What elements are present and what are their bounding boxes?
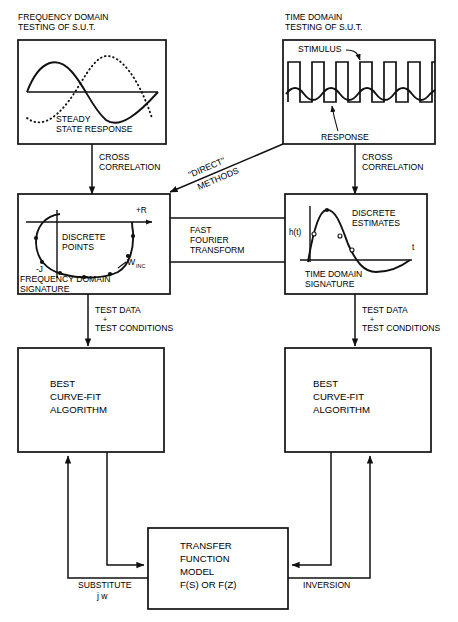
curvefit-right-line1: BEST — [313, 378, 338, 389]
time-signature-caption-line1: TIME DOMAIN — [305, 269, 362, 279]
impulse-estimate-point — [338, 234, 342, 238]
nyquist-point — [40, 260, 44, 264]
freq-test-heading-line2: TESTING OF S.U.T. — [18, 22, 95, 32]
impulse-estimate-point — [350, 248, 354, 252]
curvefit-left-line1: BEST — [50, 378, 75, 389]
curvefit-left-line2: CURVE-FIT — [50, 391, 101, 402]
impulse-estimate-point — [325, 208, 329, 212]
time-test-heading-line2: TESTING OF S.U.T. — [285, 22, 362, 32]
cross-correlation-right-line2: CORRELATION — [362, 162, 423, 172]
substitute-label-line2: j w — [96, 591, 108, 601]
fft-label-line2: FOURIER — [190, 235, 229, 245]
freq-test-inner-label-line2: STATE RESPONSE — [56, 124, 133, 134]
freq-signature-inner-label-line1: DISCRETE — [62, 232, 106, 242]
system-identification-flow-diagram: FREQUENCY DOMAIN TESTING OF S.U.T. STEAD… — [0, 0, 458, 622]
time-signature-inner-label-line1: DISCRETE — [352, 208, 396, 218]
time-signature-caption-line2: SIGNATURE — [305, 279, 355, 289]
diagram-canvas: FREQUENCY DOMAIN TESTING OF S.U.T. STEAD… — [0, 0, 458, 622]
test-data-left-plus: + — [103, 316, 107, 323]
curvefit-right-line3: ALGORITHM — [313, 404, 370, 415]
test-data-right-plus: + — [370, 316, 374, 323]
nyquist-point — [131, 234, 135, 238]
cross-correlation-left-line2: CORRELATION — [99, 162, 160, 172]
cross-correlation-left-line1: CROSS — [99, 152, 130, 162]
freq-test-inner-label-line1: STEADY — [56, 114, 91, 124]
substitute-label-line1: SUBSTITUTE — [78, 580, 132, 590]
nyquist-real-axis-label: +R — [136, 206, 147, 215]
time-signature-inner-label-line2: ESTIMATES — [352, 218, 400, 228]
test-data-left-line1: TEST DATA — [95, 305, 141, 315]
transfer-line1: TRANSFER — [180, 540, 232, 551]
response-label: RESPONSE — [321, 132, 369, 142]
fft-label-line3: TRANSFORM — [190, 245, 244, 255]
omega-increasing-label: W — [127, 257, 136, 267]
transfer-line2: FUNCTION — [180, 553, 230, 564]
test-data-right-line2: TEST CONDITIONS — [362, 323, 440, 333]
freq-signature-caption-line2: SIGNATURE — [20, 284, 70, 294]
time-test-heading-line1: TIME DOMAIN — [285, 12, 342, 22]
inversion-label: INVERSION — [303, 580, 350, 590]
curvefit-left-line3: ALGORITHM — [50, 404, 107, 415]
impulse-y-axis-label: h(t) — [289, 228, 302, 237]
curvefit-right-line2: CURVE-FIT — [313, 391, 364, 402]
transfer-line4: F(S) OR F(Z) — [180, 579, 236, 590]
nyquist-imag-axis-label: -J — [36, 265, 43, 274]
fft-label-line1: FAST — [190, 225, 212, 235]
test-data-left-line2: TEST CONDITIONS — [95, 323, 173, 333]
freq-test-heading-line1: FREQUENCY DOMAIN — [18, 12, 109, 22]
transfer-line3: MODEL — [180, 566, 215, 577]
freq-signature-inner-label-line2: POINTS — [62, 242, 94, 252]
omega-increasing-subscript: INC — [136, 263, 145, 269]
impulse-estimate-point — [312, 232, 316, 236]
cross-correlation-right-line1: CROSS — [362, 152, 393, 162]
freq-signature-caption-line1: FREQUENCY DOMAIN — [20, 274, 111, 284]
test-data-right-line1: TEST DATA — [362, 305, 408, 315]
nyquist-point — [34, 236, 38, 240]
stimulus-label: STIMULUS — [298, 44, 342, 54]
